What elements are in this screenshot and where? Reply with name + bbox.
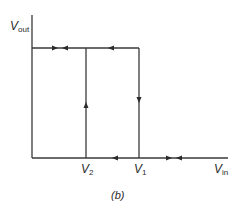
arrow-left-icon — [112, 156, 118, 161]
v2-label-sub: 2 — [89, 168, 93, 177]
v1-label-main: V — [134, 162, 142, 176]
x-axis-label-main: V — [214, 162, 222, 176]
x-axis-label: Vin — [214, 163, 228, 177]
arrow-left-icon — [108, 46, 114, 51]
v1-label: V1 — [134, 163, 146, 177]
v2-label: V2 — [81, 163, 93, 177]
arrow-left-icon — [62, 46, 68, 51]
y-axis-label: Vout — [10, 20, 29, 34]
arrow-up-icon — [84, 102, 89, 108]
x-axis-label-sub: in — [222, 168, 228, 177]
v1-label-sub: 1 — [142, 168, 146, 177]
arrow-down-icon — [137, 97, 142, 103]
v2-label-main: V — [81, 162, 89, 176]
y-axis-label-main: V — [10, 19, 18, 33]
arrow-right-icon — [52, 46, 58, 51]
figure-caption: (b) — [111, 190, 124, 201]
arrow-left-icon — [176, 156, 182, 161]
hysteresis-diagram — [0, 0, 236, 215]
arrow-right-icon — [166, 156, 172, 161]
y-axis-label-sub: out — [18, 25, 29, 34]
